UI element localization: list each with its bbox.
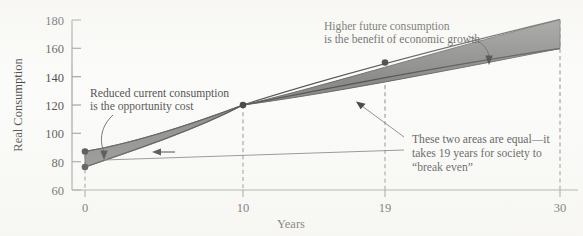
y-axis-title: Real Consumption [11,58,25,152]
break-even-note-line1: These two areas are equal—it [412,133,551,146]
break-even-leader-lower [104,150,404,160]
y-tick-label-120: 120 [45,99,64,113]
y-tick-label-140: 140 [45,71,64,85]
marker-growth-year0 [82,164,89,171]
y-tick-label-180: 180 [45,14,64,28]
x-tick-marks [85,190,560,197]
y-tick-label-160: 160 [45,42,64,56]
y-tick-label-80: 80 [52,156,65,170]
x-axis-title: Years [277,217,305,231]
x-tick-label-0: 0 [82,201,88,215]
benefit-note-line1: Higher future consumption [324,20,450,33]
x-tick-label-30: 30 [554,201,567,215]
opportunity-cost-note-line1: Reduced current consumption [90,87,229,100]
y-tick-label-100: 100 [45,127,64,141]
break-even-note-line3: “break even” [412,161,473,174]
wedge-inner-arrowhead [152,148,161,155]
break-even-note-line2: takes 19 years for society to [412,147,542,160]
x-tick-label-10: 10 [237,201,250,215]
marker-growth-year19 [382,59,389,66]
economic-growth-figure: 180 160 140 120 100 80 60 Real Consumpti… [0,0,583,236]
benefit-note-line2: is the benefit of economic growth [324,33,480,46]
x-tick-label-19: 19 [379,201,392,215]
y-tick-label-60: 60 [52,184,65,198]
marker-crossing-year10 [240,102,247,109]
break-even-leader-upper [362,106,404,137]
opportunity-cost-note-line2: is the opportunity cost [90,100,194,113]
marker-baseline-year0 [82,148,89,155]
chart-svg: 180 160 140 120 100 80 60 Real Consumpti… [0,0,583,236]
y-tick-marks [72,20,81,190]
